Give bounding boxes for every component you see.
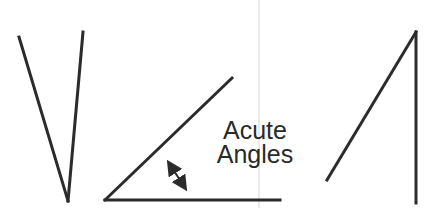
angle-measure-arrow-icon <box>169 163 185 188</box>
diagram-label: Acute Angles <box>195 118 315 166</box>
label-line-2: Angles <box>195 142 315 166</box>
label-line-1: Acute <box>195 118 315 142</box>
acute-angles-diagram <box>0 0 428 208</box>
narrow-v-angle <box>19 32 83 201</box>
tall-acute-angle <box>327 32 416 203</box>
